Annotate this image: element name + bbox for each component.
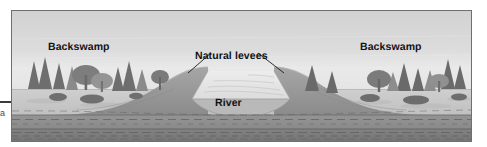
substrate-upper (12, 115, 471, 129)
label-backswamp-right: Backswamp (360, 41, 422, 53)
river-water-surface (192, 71, 290, 99)
cross-section-canvas (12, 11, 471, 141)
cross-section-figure: Backswamp Backswamp Natural levees River (11, 10, 472, 142)
margin-rule-mark (0, 101, 11, 103)
label-natural-levees: Natural levees (195, 50, 268, 62)
label-backswamp-left: Backswamp (48, 41, 110, 53)
figure-page: a (0, 0, 487, 147)
margin-clipped-glyph: a (0, 108, 9, 119)
label-river: River (215, 97, 242, 109)
